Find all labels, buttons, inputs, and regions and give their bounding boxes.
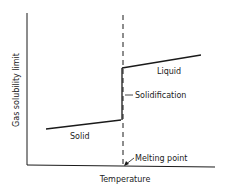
arrow-head-icon bbox=[124, 161, 129, 166]
solid-label: Solid bbox=[70, 132, 90, 141]
x-axis-label: Temperature bbox=[99, 175, 151, 184]
melting-point-label: Melting point bbox=[135, 154, 188, 163]
liquid-label: Liquid bbox=[157, 67, 181, 76]
x-axis bbox=[27, 165, 215, 167]
solidification-label: Solidification bbox=[135, 91, 186, 100]
solid-curve bbox=[46, 120, 121, 129]
y-axis-label: Gas solubility limit bbox=[12, 53, 21, 127]
gas-solubility-diagram: Gas solubility limit Temperature Solid L… bbox=[0, 0, 228, 185]
